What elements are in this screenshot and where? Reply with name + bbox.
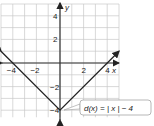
svg-text:2: 2	[82, 66, 87, 75]
function-label: d(x) = | x | − 4	[84, 104, 134, 113]
x-axis-label: x	[111, 66, 117, 75]
function-graph: −4−22442−2−4 y x d(x) = | x | − 4	[0, 0, 154, 126]
svg-text:4: 4	[105, 66, 110, 75]
svg-text:2: 2	[53, 35, 58, 44]
svg-text:−4: −4	[7, 66, 17, 75]
svg-text:−2: −2	[50, 83, 60, 92]
svg-text:−2: −2	[30, 66, 40, 75]
svg-text:4: 4	[53, 12, 58, 21]
